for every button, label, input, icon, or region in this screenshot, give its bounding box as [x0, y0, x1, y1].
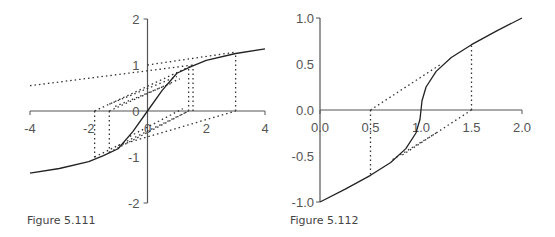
x-tick-label: -4 — [24, 121, 36, 136]
caption-figure-5-112: Figure 5.112 — [290, 214, 359, 227]
figure-canvas: -4-2024-2-1012 0.00.51.01.52.0-1.0-0.50.… — [0, 0, 555, 237]
x-tick-label: 2 — [203, 121, 210, 136]
y-tick-label: -2 — [128, 196, 140, 211]
y-tick-label: -1.0 — [292, 195, 314, 210]
chart-figure-5-111: -4-2024-2-1012 — [24, 12, 268, 211]
chart-figure-5-112: 0.00.51.01.52.0-1.0-0.50.00.51.0 — [292, 11, 531, 210]
x-tick-label: 1.0 — [412, 120, 430, 135]
dotted-construction-line — [371, 64, 442, 110]
x-tick-label: 0 — [144, 121, 151, 136]
x-tick-label: 0.0 — [311, 120, 329, 135]
y-tick-label: 0.5 — [296, 57, 314, 72]
x-tick-label: 1.5 — [462, 120, 480, 135]
dotted-construction-line — [148, 52, 236, 65]
x-tick-label: 4 — [261, 121, 268, 136]
y-tick-label: 0.0 — [296, 103, 314, 118]
y-tick-label: 0 — [132, 104, 139, 119]
y-tick-label: -0.5 — [292, 149, 314, 164]
x-tick-label: -2 — [83, 121, 95, 136]
y-tick-label: 2 — [132, 12, 139, 27]
caption-figure-5-111: Figure 5.111 — [27, 214, 96, 227]
y-tick-label: -1 — [128, 150, 140, 165]
x-tick-label: 2.0 — [513, 120, 531, 135]
y-tick-label: 1 — [132, 58, 139, 73]
y-tick-label: 1.0 — [296, 11, 314, 26]
